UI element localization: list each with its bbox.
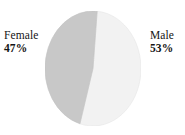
pie-svg — [45, 11, 141, 126]
pie-chart-figure: Female 47% Male 53% — [0, 0, 185, 135]
pie-label-male-percent: 53% — [150, 42, 174, 54]
pie-label-male-name: Male — [150, 29, 174, 41]
pie-chart-graphic — [45, 11, 141, 126]
pie-label-male: Male 53% — [150, 29, 174, 54]
pie-label-female-percent: 47% — [4, 42, 38, 54]
pie-label-female: Female 47% — [4, 29, 38, 54]
pie-label-female-name: Female — [4, 29, 38, 41]
